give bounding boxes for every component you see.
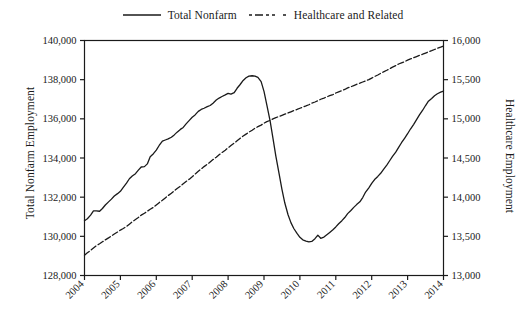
x-axis-tick-label: 2014 xyxy=(422,278,445,301)
right-axis-tick-label: 14,500 xyxy=(452,153,481,164)
right-axis-tick-label: 15,000 xyxy=(452,113,481,124)
x-axis-tick-label: 2013 xyxy=(386,278,409,301)
chart-figure: Total Nonfarm Healthcare and Related Tot… xyxy=(0,0,525,316)
left-axis-tick-label: 130,000 xyxy=(42,231,76,242)
x-axis-tick-label: 2007 xyxy=(171,278,194,301)
plot-frame xyxy=(85,41,444,276)
x-axis-tick-label: 2008 xyxy=(207,278,230,301)
x-axis-tick-label: 2010 xyxy=(279,278,302,301)
left-axis-tick-label: 140,000 xyxy=(42,35,76,46)
right-axis-tick-label: 13,000 xyxy=(452,270,481,281)
series-line-healthcare xyxy=(85,46,444,255)
x-axis-tick-label: 2009 xyxy=(243,278,266,301)
left-axis-tick-label: 136,000 xyxy=(42,113,76,124)
left-axis-tick-label: 132,000 xyxy=(42,192,76,203)
right-axis-tick-label: 16,000 xyxy=(452,35,481,46)
right-axis-tick-label: 13,500 xyxy=(452,231,481,242)
right-axis-tick-label: 15,500 xyxy=(452,74,481,85)
left-axis-tick-label: 128,000 xyxy=(42,270,76,281)
right-axis-tick-label: 14,000 xyxy=(452,192,481,203)
x-axis-tick-label: 2006 xyxy=(135,278,158,301)
x-axis-tick-label: 2011 xyxy=(315,278,337,300)
left-axis-tick-label: 138,000 xyxy=(42,74,76,85)
x-axis-tick-label: 2012 xyxy=(350,278,373,301)
chart-plot: 128,000130,000132,000134,000136,000138,0… xyxy=(0,0,525,316)
x-axis-tick-label: 2005 xyxy=(99,278,122,301)
left-axis-tick-label: 134,000 xyxy=(42,153,76,164)
